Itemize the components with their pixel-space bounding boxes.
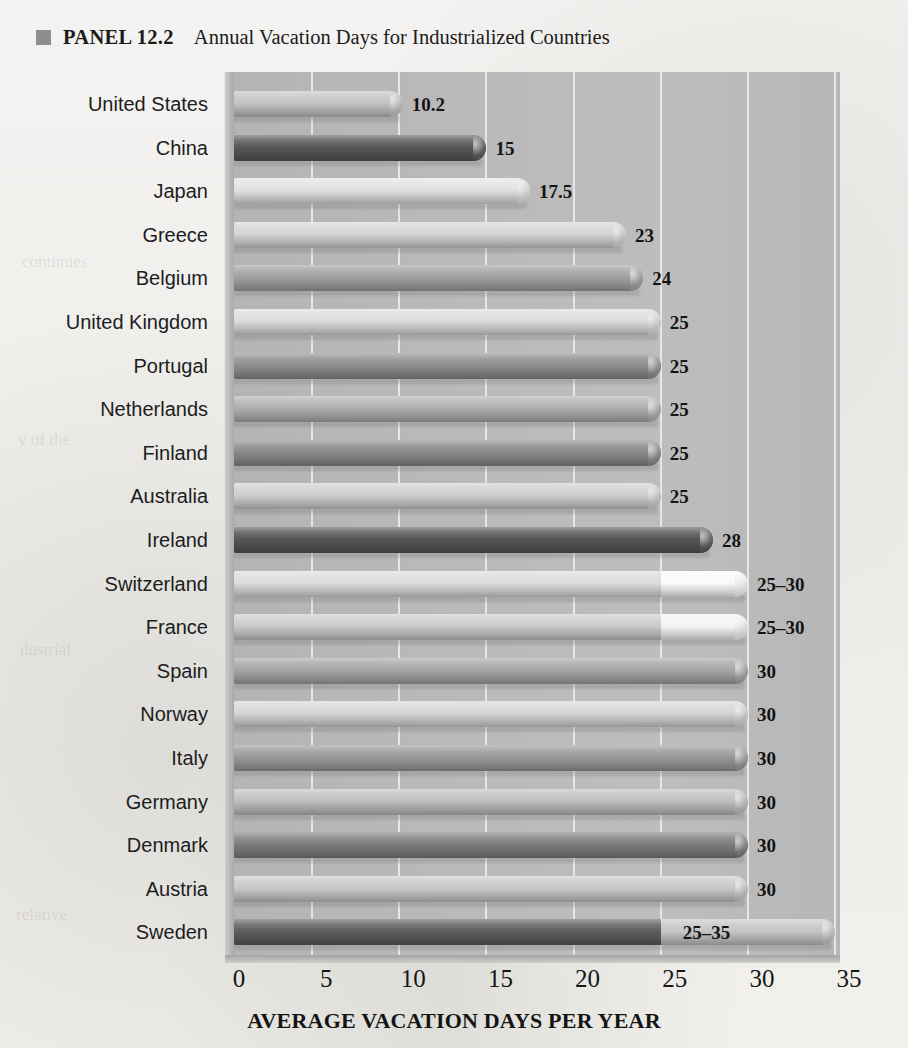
data-label-spain: 30: [757, 662, 776, 681]
x-tick-0: 0: [233, 966, 246, 991]
bar-segment-base: [225, 222, 626, 248]
gridline-35: [834, 72, 836, 955]
bar-netherlands[interactable]: [225, 396, 661, 422]
y-axis-label-belgium: Belgium: [0, 268, 208, 288]
data-label-sweden: 25–35: [683, 923, 731, 942]
y-axis-label-netherlands: Netherlands: [0, 399, 208, 419]
x-tick-20: 20: [575, 966, 600, 991]
bar-sweden[interactable]: [225, 919, 835, 945]
data-label-australia: 25: [670, 487, 689, 506]
bar-segment-base: [225, 832, 748, 858]
bar-segment-base: [225, 483, 661, 509]
bar-switzerland[interactable]: [225, 571, 748, 597]
bar-segment-base: [225, 701, 748, 727]
bar-united-kingdom[interactable]: [225, 309, 661, 335]
y-axis-label-portugal: Portugal: [0, 356, 208, 376]
data-label-austria: 30: [757, 880, 776, 899]
bar-australia[interactable]: [225, 483, 661, 509]
bar-segment-base: [225, 658, 748, 684]
x-tick-5: 5: [320, 966, 333, 991]
data-label-italy: 30: [757, 749, 776, 768]
data-label-finland: 25: [670, 444, 689, 463]
bar-portugal[interactable]: [225, 353, 661, 379]
data-label-norway: 30: [757, 705, 776, 724]
y-axis-label-austria: Austria: [0, 879, 208, 899]
data-label-united-kingdom: 25: [670, 313, 689, 332]
data-label-france: 25–30: [757, 618, 805, 637]
y-axis-label-sweden: Sweden: [0, 922, 208, 942]
bar-greece[interactable]: [225, 222, 626, 248]
bar-austria[interactable]: [225, 876, 748, 902]
bar-segment-base: [225, 91, 403, 117]
bar-segment-base: [225, 614, 661, 640]
bar-belgium[interactable]: [225, 265, 643, 291]
bar-segment-base: [225, 309, 661, 335]
y-axis-label-finland: Finland: [0, 443, 208, 463]
y-axis-label-germany: Germany: [0, 792, 208, 812]
y-axis-label-china: China: [0, 138, 208, 158]
bar-segment-base: [225, 919, 661, 945]
bar-segment-base: [225, 876, 748, 902]
data-label-germany: 30: [757, 793, 776, 812]
bar-segment-base: [225, 745, 748, 771]
bar-united-states[interactable]: [225, 91, 403, 117]
bar-segment-base: [225, 265, 643, 291]
x-tick-35: 35: [837, 966, 862, 991]
bar-france[interactable]: [225, 614, 748, 640]
data-label-netherlands: 25: [670, 400, 689, 419]
y-axis-label-japan: Japan: [0, 181, 208, 201]
bar-italy[interactable]: [225, 745, 748, 771]
bar-segment-base: [225, 527, 713, 553]
data-label-greece: 23: [635, 226, 654, 245]
x-tick-15: 15: [488, 966, 513, 991]
y-axis-label-switzerland: Switzerland: [0, 574, 208, 594]
y-axis-label-norway: Norway: [0, 704, 208, 724]
x-tick-25: 25: [662, 966, 687, 991]
data-label-united-states: 10.2: [412, 95, 445, 114]
bar-segment-base: [225, 440, 661, 466]
x-axis-title: AVERAGE VACATION DAYS PER YEAR: [0, 1008, 908, 1034]
y-axis-label-greece: Greece: [0, 225, 208, 245]
bar-segment-base: [225, 789, 748, 815]
bar-ireland[interactable]: [225, 527, 713, 553]
data-label-china: 15: [495, 139, 514, 158]
y-axis-label-united-states: United States: [0, 94, 208, 114]
data-label-portugal: 25: [670, 357, 689, 376]
bar-segment-base: [225, 178, 530, 204]
y-axis-label-spain: Spain: [0, 661, 208, 681]
bar-japan[interactable]: [225, 178, 530, 204]
bar-denmark[interactable]: [225, 832, 748, 858]
y-axis-label-italy: Italy: [0, 748, 208, 768]
bar-segment-base: [225, 135, 486, 161]
y-axis-label-ireland: Ireland: [0, 530, 208, 550]
data-label-belgium: 24: [652, 269, 671, 288]
bar-norway[interactable]: [225, 701, 748, 727]
gridline-30: [747, 72, 749, 955]
plot-bevel-left: [225, 72, 234, 962]
bar-germany[interactable]: [225, 789, 748, 815]
gridline-25: [660, 72, 662, 955]
bar-segment-base: [225, 571, 661, 597]
bar-finland[interactable]: [225, 440, 661, 466]
x-tick-30: 30: [749, 966, 774, 991]
vacation-days-bar-chart: United StatesChinaJapanGreeceBelgiumUnit…: [0, 0, 908, 1048]
y-axis-label-denmark: Denmark: [0, 835, 208, 855]
y-axis-label-france: France: [0, 617, 208, 637]
data-label-ireland: 28: [722, 531, 741, 550]
plot-bevel-bottom: [225, 955, 840, 963]
y-axis-label-australia: Australia: [0, 486, 208, 506]
y-axis-label-united-kingdom: United Kingdom: [0, 312, 208, 332]
x-tick-10: 10: [401, 966, 426, 991]
bar-segment-base: [225, 396, 661, 422]
data-label-denmark: 30: [757, 836, 776, 855]
data-label-japan: 17.5: [539, 182, 572, 201]
bar-segment-base: [225, 353, 661, 379]
plot-area: [225, 72, 840, 955]
data-label-switzerland: 25–30: [757, 575, 805, 594]
bar-china[interactable]: [225, 135, 486, 161]
bar-spain[interactable]: [225, 658, 748, 684]
